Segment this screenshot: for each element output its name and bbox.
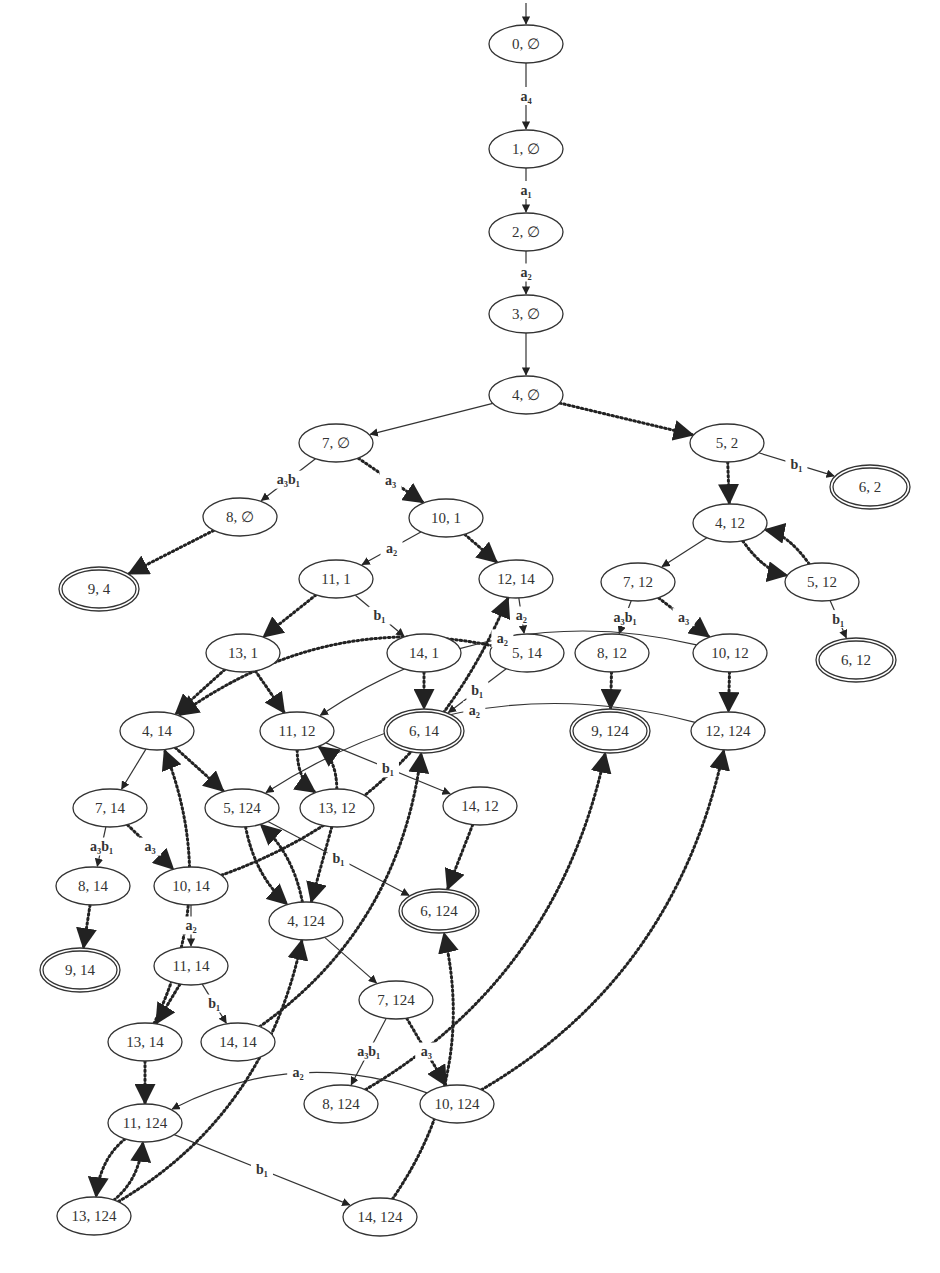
edge-label: a₁ [520,183,531,198]
edge-label: a₄ [520,89,532,104]
state-node: 11, 14 [154,947,228,985]
edge-n5_2-to-n4_12 [728,462,730,503]
edge-n5_124-to-n4_124 [246,827,287,904]
edge-label: a₃ [678,610,689,625]
edge-n4_14-to-n7_14 [122,749,146,789]
state-node: 14, 1 [387,634,461,672]
state-label: 7, 12 [623,574,653,590]
edge-label: a₃ [385,473,396,488]
state-label: 6, 124 [420,903,458,919]
edge-label: a₃ [421,1044,432,1059]
edge-label: b₁ [332,851,344,866]
state-label: 6, 14 [409,723,440,739]
state-node: 4, 124 [269,902,343,940]
state-label: 14, 1 [409,645,439,661]
edges-layer [84,3,847,1205]
edge-n4_14-to-n5_124 [175,748,223,791]
state-node: 13, 1 [206,634,280,672]
state-label: 1, ∅ [512,141,540,157]
state-label: 4, 14 [142,723,173,739]
edge-label: a₂ [293,1065,304,1080]
edge-n14_12-to-n6_124 [448,825,473,889]
nodes-layer: 0, ∅1, ∅2, ∅3, ∅4, ∅7, ∅5, 26, 28, ∅10, … [40,25,910,1236]
state-label: 14, 124 [358,1209,404,1225]
state-label: 14, 12 [461,798,499,814]
state-node: 5, 124 [205,789,279,827]
edge-n8_12-to-n9_124 [611,672,612,708]
edge-label: a₂ [185,918,196,933]
edge-label: a₃b₁ [614,610,637,625]
state-node: 8, 12 [575,634,649,672]
state-node: 8, 124 [304,1085,378,1123]
final-state-node: 6, 2 [830,465,910,509]
state-label: 10, 14 [172,878,210,894]
state-node: 11, 124 [108,1104,182,1142]
state-node: 8, 14 [56,867,130,905]
edge-label: a₃b₁ [90,839,113,854]
state-label: 11, 1 [321,571,350,587]
state-node: 11, 12 [260,712,334,750]
state-node: 13, 14 [108,1023,182,1061]
state-node: 5, 2 [690,424,764,462]
state-label: 5, 14 [512,645,543,661]
edge-n10_124-to-n12_124 [481,751,723,1090]
state-label: 11, 14 [173,958,210,974]
edge-label: a₃b₁ [277,472,300,487]
edge-n13_1-to-n11_12 [255,671,284,712]
edge-n5_12-to-n4_12 [766,530,810,564]
state-label: 6, 2 [859,479,882,495]
state-node: 7, 14 [73,789,147,827]
state-node: 7, 12 [601,563,675,601]
edge-label: b₁ [382,761,394,776]
state-node: 4, ∅ [489,376,563,414]
state-node: 10, 14 [154,867,228,905]
state-label: 13, 12 [318,800,356,816]
edge-label: a₃b₁ [357,1044,380,1059]
final-state-node: 9, 14 [40,948,120,992]
state-node: 1, ∅ [489,130,563,168]
state-node: 10, 1 [409,499,483,537]
state-node: 4, 12 [693,504,767,542]
state-label: 13, 1 [228,645,258,661]
state-node: 14, 12 [443,787,517,825]
state-node: 0, ∅ [489,25,563,63]
state-label: 7, 124 [377,992,415,1008]
state-node: 3, ∅ [489,295,563,333]
edge-label: a₂ [386,541,397,556]
state-node: 10, 124 [420,1085,494,1123]
state-label: 8, 12 [597,645,627,661]
state-label: 7, ∅ [322,435,350,451]
edge-label: b₁ [374,608,386,623]
state-label: 14, 14 [219,1034,257,1050]
edge-label: b₁ [256,1162,268,1177]
state-graph: 0, ∅1, ∅2, ∅3, ∅4, ∅7, ∅5, 26, 28, ∅10, … [0,0,940,1273]
edge-label: a₂ [520,265,531,280]
state-node: 8, ∅ [203,498,277,536]
edge-n10_12-to-n12_124 [729,672,730,711]
state-node: 14, 14 [201,1023,275,1061]
state-label: 11, 124 [123,1115,168,1131]
state-label: 3, ∅ [512,306,540,322]
edge-n8_14-to-n9_14 [84,905,91,947]
state-label: 11, 12 [279,723,316,739]
state-node: 4, 14 [120,712,194,750]
state-label: 9, 124 [591,723,629,739]
edge-label: b₁ [832,612,844,627]
state-label: 5, 2 [716,435,739,451]
edge-label: a₃ [144,839,155,854]
state-node: 14, 124 [343,1198,417,1236]
state-label: 2, ∅ [512,224,540,240]
state-label: 5, 124 [223,800,261,816]
edge-label: a₂ [497,631,508,646]
edge-label: b₁ [790,457,802,472]
state-node: 5, 12 [785,563,859,601]
state-node: 11, 1 [299,560,373,598]
state-node: 2, ∅ [489,213,563,251]
state-node: 13, 124 [57,1197,131,1235]
state-node: 13, 12 [300,789,374,827]
state-node: 12, 124 [691,712,765,750]
state-label: 10, 12 [711,645,749,661]
edge-n4_0-to-n5_2 [560,403,693,435]
state-label: 6, 12 [841,652,871,668]
state-label: 9, 4 [88,581,111,597]
